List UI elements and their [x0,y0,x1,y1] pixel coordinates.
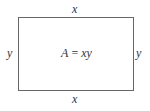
area-formula: A = xy [18,47,135,59]
left-side-label: y [7,47,12,59]
bottom-side-label: x [72,93,77,105]
top-side-label: x [72,3,77,15]
formula-lhs: A [61,46,68,60]
formula-rhs: xy [81,46,92,60]
formula-equals: = [71,46,78,60]
right-side-label: y [136,47,141,59]
